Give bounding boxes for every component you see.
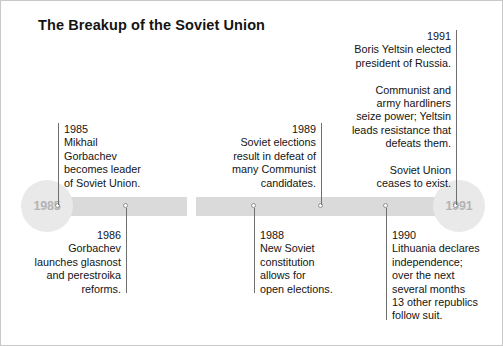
event-text-1986: Gorbachev launches glasnost and perestro… xyxy=(20,242,121,296)
event-text-1991-para1: Boris Yeltsin elected president of Russi… xyxy=(338,43,451,70)
event-block-1986: 1986 Gorbachev launches glasnost and per… xyxy=(20,229,121,296)
event-text-1985: Mikhail Gorbachev becomes leader of Sovi… xyxy=(64,136,160,190)
timeline-end-label: 1991 xyxy=(445,199,472,213)
connector-rule-1990 xyxy=(386,208,387,320)
page-title: The Breakup of the Soviet Union xyxy=(38,17,265,33)
event-block-1985: 1985 Mikhail Gorbachev becomes leader of… xyxy=(64,123,160,190)
event-year-1988: 1988 xyxy=(260,229,361,242)
timeline-bar xyxy=(26,197,471,216)
connector-rule-1988 xyxy=(254,208,255,293)
connector-rule-1989 xyxy=(321,123,322,205)
event-year-1989: 1989 xyxy=(213,123,316,136)
event-text-1990: Lithuania declares independence; over th… xyxy=(392,242,497,322)
event-block-1989: 1989 Soviet elections result in defeat o… xyxy=(213,123,316,190)
event-year-1991: 1991 xyxy=(338,30,451,43)
event-text-1991-para3: Soviet Union ceases to exist. xyxy=(338,164,451,191)
event-year-1985: 1985 xyxy=(64,123,160,136)
connector-rule-1985 xyxy=(58,123,59,205)
connector-rule-1986 xyxy=(126,208,127,293)
timeline-infographic: The Breakup of the Soviet Union 1985 199… xyxy=(0,0,503,346)
event-text-1988: New Soviet constitution allows for open … xyxy=(260,242,361,296)
timeline-bar-gap xyxy=(187,197,196,216)
event-1991-spacer-2 xyxy=(338,151,451,164)
event-text-1991-para2: Communist and army hardliners seize powe… xyxy=(338,84,451,151)
event-block-1988: 1988 New Soviet constitution allows for … xyxy=(260,229,361,296)
event-text-1989: Soviet elections result in defeat of man… xyxy=(213,136,316,190)
event-block-1990: 1990 Lithuania declares independence; ov… xyxy=(392,229,497,323)
event-block-1991: 1991 Boris Yeltsin elected president of … xyxy=(338,30,451,191)
event-1991-spacer-1 xyxy=(338,70,451,83)
event-year-1986: 1986 xyxy=(20,229,121,242)
event-year-1990: 1990 xyxy=(392,229,497,242)
connector-rule-1991 xyxy=(456,30,457,205)
